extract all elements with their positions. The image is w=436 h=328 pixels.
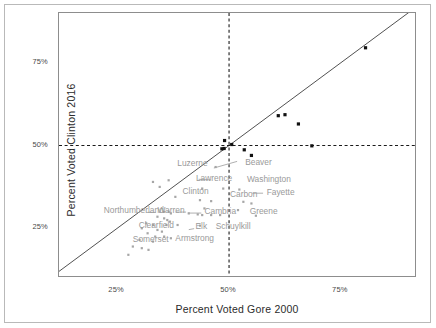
scatter-point xyxy=(223,147,226,150)
x-tick-label: 25% xyxy=(96,285,136,294)
point-label: Elk xyxy=(195,221,207,231)
plot-panel: LuzerneBeaverLawrenceWashingtonClintonCa… xyxy=(58,12,416,277)
scatter-point xyxy=(222,187,224,189)
point-label: Greene xyxy=(250,206,278,216)
point-label: Cambria xyxy=(204,206,236,216)
point-label: Northumberland xyxy=(104,205,164,215)
x-tick-label: 75% xyxy=(320,285,360,294)
scatter-point xyxy=(297,122,300,125)
scatter-point xyxy=(277,114,280,117)
scatter-point xyxy=(310,144,313,147)
scatter-point xyxy=(174,196,176,198)
scatter-point xyxy=(132,245,134,247)
scatter-point xyxy=(242,201,244,203)
point-label: Warren xyxy=(157,205,184,215)
point-label: Clinton xyxy=(183,186,209,196)
scatter-point xyxy=(215,166,217,168)
dark-markers-group xyxy=(220,46,367,157)
scatter-point xyxy=(197,213,199,215)
scatter-point xyxy=(159,186,161,188)
scatter-point xyxy=(243,148,246,151)
point-label: Schuylkill xyxy=(216,221,251,231)
point-label: Beaver xyxy=(245,157,272,167)
y-tick-label: 25% xyxy=(0,222,48,231)
point-label: Armstrong xyxy=(175,233,214,243)
scatter-point xyxy=(156,216,158,218)
point-label: Washington xyxy=(247,174,291,184)
scatter-point xyxy=(250,202,252,204)
x-axis-title: Percent Voted Gore 2000 xyxy=(58,303,416,315)
leader-line xyxy=(214,161,237,168)
reference-lines-group xyxy=(59,13,416,277)
scatter-point xyxy=(199,199,201,201)
scatter-point xyxy=(147,249,149,251)
scatter-point xyxy=(168,179,170,181)
scatter-plot-svg: LuzerneBeaverLawrenceWashingtonClintonCa… xyxy=(59,13,416,277)
point-label: Clearfield xyxy=(139,220,175,230)
point-label: Lawrence xyxy=(196,173,233,183)
y-tick-label: 75% xyxy=(0,57,48,66)
scatter-point xyxy=(210,200,212,202)
scatter-point xyxy=(223,139,226,142)
point-label: Luzerne xyxy=(177,158,208,168)
y-tick-label: 50% xyxy=(0,140,48,149)
scatter-point xyxy=(141,247,143,249)
leader-line xyxy=(189,229,194,230)
point-label: Fayette xyxy=(267,187,295,197)
point-label: Somerset xyxy=(133,234,170,244)
scatter-point xyxy=(237,209,239,211)
scatter-point xyxy=(170,237,172,239)
scatter-point xyxy=(364,46,367,49)
scatter-point xyxy=(230,143,233,146)
scatter-point xyxy=(201,214,203,216)
point-label: Carbon xyxy=(230,189,258,199)
x-tick-label: 50% xyxy=(208,285,248,294)
scatter-point xyxy=(283,113,286,116)
scatter-point xyxy=(127,254,129,256)
y-axis-title: Percent Voted Clinton 2016 xyxy=(65,18,77,283)
scatter-point xyxy=(152,181,154,183)
scatter-point xyxy=(176,224,178,226)
identity-line xyxy=(59,13,416,271)
chart-figure: LuzerneBeaverLawrenceWashingtonClintonCa… xyxy=(0,0,436,328)
scatter-point xyxy=(161,231,163,233)
scatter-point xyxy=(188,212,190,214)
